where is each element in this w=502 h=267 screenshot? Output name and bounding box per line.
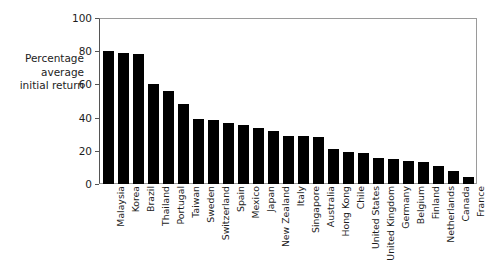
x-axis-category-label: Italy [293,186,302,206]
bar [358,153,369,184]
x-axis-category-label-text: United Kingdom [386,186,395,261]
bar [343,152,354,184]
bar [403,161,414,184]
x-axis-category-label-text: Chile [356,186,365,209]
bar [238,125,249,184]
x-axis-category-label: Portugal [173,186,182,225]
x-axis-category-label: France [473,186,482,217]
x-axis-category-label-text: United States [371,186,380,249]
bar [268,131,279,184]
y-axis-tick-label: 100 [66,13,92,24]
bar [193,119,204,184]
x-axis-category-label: Japan [263,186,272,212]
x-axis-category-label: Australia [323,186,332,227]
x-axis-category-label: Taiwan [188,186,197,218]
x-axis-category-label: Singapore [308,186,317,233]
y-axis-tick-label: 80 [66,46,92,57]
y-axis-tick-mark [95,84,99,85]
x-axis-category-label-text: Australia [326,186,335,227]
bar [313,137,324,184]
x-axis-category-label: Belgium [413,186,422,224]
x-axis-category-label-text: Germany [401,186,410,229]
bar [208,120,219,184]
y-axis-tick-mark [95,51,99,52]
bar [283,136,294,184]
x-axis-category-label: Malaysia [113,186,122,227]
bar [298,136,309,184]
x-axis-category-label: Germany [398,186,407,229]
x-axis-category-label-text: Canada [461,186,470,221]
x-axis-category-label: Canada [458,186,467,221]
x-axis-category-label-text: France [476,186,485,217]
x-axis-category-label-text: Netherlands [446,186,455,243]
x-axis-category-label: Korea [128,186,137,212]
x-axis-category-label-text: Korea [131,186,140,212]
y-axis-tick-label: 60 [66,79,92,90]
bars-container [100,18,477,184]
x-axis-category-label-text: Mexico [251,186,260,218]
x-axis-category-label: New Zealand [278,186,287,247]
x-axis-category-label-text: Malaysia [116,186,125,227]
x-axis-category-label: Hong Kong [338,186,347,237]
x-axis-category-label-text: Italy [296,186,305,206]
y-axis-tick-label: 0 [66,179,92,190]
y-axis-tick-mark [95,118,99,119]
y-axis-tick-label: 20 [66,146,92,157]
x-axis-category-label-text: Belgium [416,186,425,224]
x-axis-category-label: Spain [233,186,242,212]
x-axis-category-label-text: Japan [266,186,275,212]
x-axis-category-label-text: Spain [236,186,245,212]
bar-chart-figure: Percentage average initial return 020406… [0,0,502,267]
x-axis-category-labels: MalaysiaKoreaBrazilThailandPortugalTaiwa… [100,186,477,266]
y-axis-tick-mark [95,151,99,152]
bar [418,162,429,184]
x-axis-category-label: Switzerland [218,186,227,240]
x-axis-category-label-text: Switzerland [221,186,230,240]
x-axis-category-label: United States [368,186,377,249]
bar [373,158,384,184]
x-axis-category-label-text: Brazil [146,186,155,212]
bar [463,177,474,184]
bar [433,166,444,184]
bar [388,159,399,184]
x-axis-category-label-text: Portugal [176,186,185,225]
y-axis-tick-mark [95,18,99,19]
x-axis-category-label-text: Thailand [161,186,170,226]
x-axis-category-label-text: Singapore [311,186,320,233]
x-axis-category-label: Netherlands [443,186,452,243]
bar [148,84,159,184]
x-axis-category-label: Mexico [248,186,257,218]
y-axis-tick-mark [95,184,99,185]
bar [133,54,144,184]
x-axis-category-label-text: Hong Kong [341,186,350,237]
x-axis-category-label-text: Taiwan [191,186,200,218]
bar [103,51,114,184]
x-axis-category-label: Brazil [143,186,152,212]
x-axis-category-label: Thailand [158,186,167,226]
bar [163,91,174,184]
x-axis-category-label: Sweden [203,186,212,223]
x-axis-category-label-text: Sweden [206,186,215,223]
bar [328,149,339,184]
y-axis-tick-label: 40 [66,113,92,124]
bar [118,53,129,184]
x-axis-category-label-text: New Zealand [281,186,290,247]
x-axis-category-label-text: Finland [431,186,440,219]
bar [178,104,189,184]
bar [253,128,264,184]
bar [448,171,459,184]
x-axis-category-label: United Kingdom [383,186,392,261]
x-axis-category-label: Finland [428,186,437,219]
bar [223,123,234,184]
x-axis-category-label: Chile [353,186,362,209]
